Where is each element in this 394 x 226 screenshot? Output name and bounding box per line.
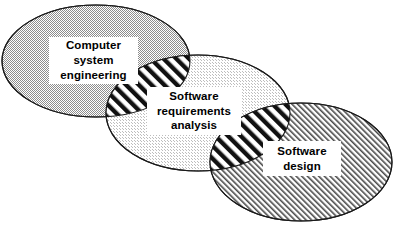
label-cse-line-2: system: [73, 53, 113, 68]
label-sra-line-1: Software: [169, 89, 218, 104]
label-sd-line-1: Software: [277, 144, 326, 159]
label-sra-line-3: analysis: [171, 118, 217, 133]
label-sra-line-2: requirements: [157, 104, 231, 119]
label-cse-line-1: Computer: [66, 38, 121, 53]
label-software-requirements-analysis: Software requirements analysis: [147, 87, 241, 135]
label-computer-system-engineering: Computer system engineering: [49, 37, 138, 84]
venn-diagram: Computer system engineering Software req…: [0, 0, 394, 226]
label-software-design: Software design: [263, 141, 341, 176]
label-sd-line-2: design: [283, 159, 321, 174]
label-cse-line-3: engineering: [60, 68, 126, 83]
